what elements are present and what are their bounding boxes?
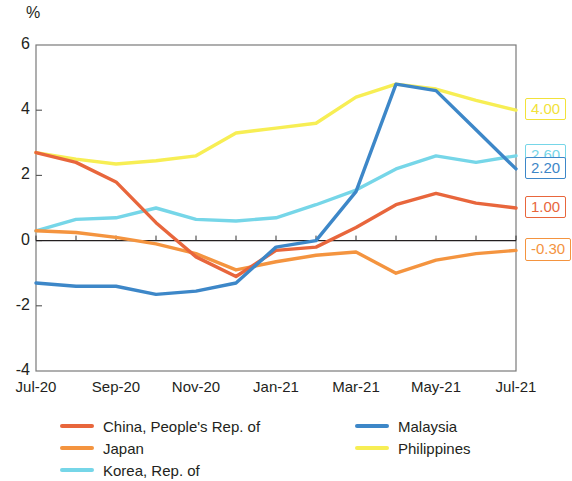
x-axis-tick-label: Sep-20 [81, 378, 151, 395]
y-axis-tick-label: -4 [0, 361, 30, 379]
y-axis-tick-label: 6 [0, 35, 30, 53]
x-axis-tick-label: Nov-20 [161, 378, 231, 395]
legend-label-korea: Korea, Rep. of [103, 462, 200, 479]
legend-label-malaysia: Malaysia [398, 418, 457, 435]
end-value-label-china-people-s-rep-of: 1.00 [525, 196, 566, 218]
end-value-label-japan: -0.30 [525, 238, 571, 260]
y-axis-tick-label: 2 [0, 165, 30, 183]
legend-swatch-malaysia [355, 424, 389, 428]
end-value-label-malaysia: 2.20 [525, 157, 566, 179]
y-axis-tick-label: -2 [0, 296, 30, 314]
legend-label-china: China, People's Rep. of [103, 418, 260, 435]
plot-frame [36, 45, 516, 371]
x-axis-tick-label: May-21 [401, 378, 471, 395]
legend-item-philippines[interactable]: Philippines [355, 437, 471, 459]
y-axis-tick-label: 0 [0, 231, 30, 249]
legend-swatch-china [60, 424, 94, 428]
end-value-label-philippines: 4.00 [525, 98, 566, 120]
x-axis-tick-label: Mar-21 [321, 378, 391, 395]
chart-figure: % 6420-2-4 Jul-20Sep-20Nov-20Jan-21Mar-2… [0, 0, 572, 481]
legend-item-japan[interactable]: Japan [60, 437, 260, 459]
legend-label-philippines: Philippines [398, 440, 471, 457]
legend-column-left: China, People's Rep. of Japan Korea, Rep… [60, 415, 260, 481]
axes-layer [36, 45, 516, 371]
legend-swatch-japan [60, 446, 94, 450]
x-axis-tick-label: Jul-21 [481, 378, 551, 395]
legend-swatch-philippines [355, 446, 389, 450]
y-axis-tick-label: 4 [0, 100, 30, 118]
y-axis-unit-label: % [26, 4, 40, 22]
legend-item-korea[interactable]: Korea, Rep. of [60, 459, 260, 481]
legend-column-right: Malaysia Philippines [355, 415, 471, 459]
x-axis-tick-label: Jan-21 [241, 378, 311, 395]
chart-legend: China, People's Rep. of Japan Korea, Rep… [60, 415, 560, 481]
line-chart-plot [0, 0, 572, 481]
legend-swatch-korea [60, 468, 94, 472]
legend-item-malaysia[interactable]: Malaysia [355, 415, 471, 437]
legend-item-china[interactable]: China, People's Rep. of [60, 415, 260, 437]
legend-label-japan: Japan [103, 440, 144, 457]
x-axis-tick-label: Jul-20 [1, 378, 71, 395]
